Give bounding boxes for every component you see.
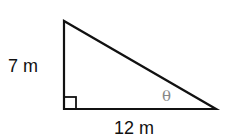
right-triangle [64, 21, 216, 109]
right-angle-marker [64, 97, 76, 109]
horizontal-side-label: 12 m [114, 118, 154, 138]
vertical-side-label: 7 m [8, 56, 38, 76]
triangle-diagram: 7 m 12 m θ [0, 0, 226, 140]
angle-theta-label: θ [162, 87, 171, 105]
